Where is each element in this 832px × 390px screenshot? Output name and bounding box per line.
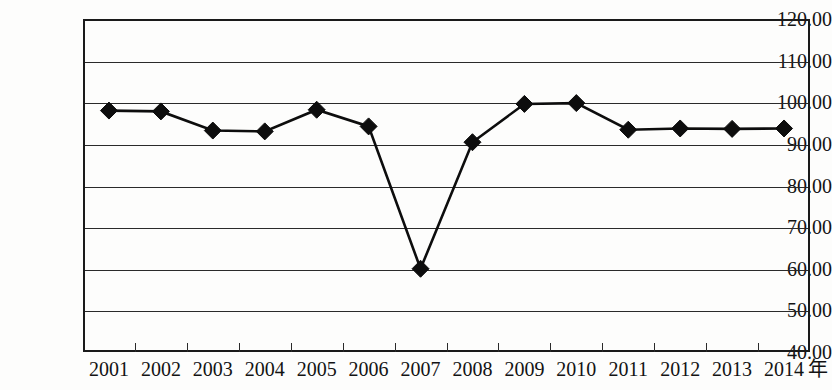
gridline-80 [85,187,808,188]
x-tick-mark [706,343,707,352]
gridline-110 [85,62,808,63]
plot-area [83,19,810,352]
x-tick-mark [550,343,551,352]
x-tick-mark [602,343,603,352]
x-tick-label-2009: 2009 [504,357,544,381]
x-axis-tick-marks [83,343,810,353]
x-tick-mark [447,343,448,352]
x-tick-mark [291,343,292,352]
x-tick-label-2005: 2005 [297,357,337,381]
x-tick-mark [343,343,344,352]
x-tick-label-2007: 2007 [401,357,441,381]
gridline-70 [85,228,808,229]
x-tick-label-2013: 2013 [712,357,752,381]
line-chart-figure: 120.00110.00100.0090.0080.0070.0060.0050… [0,0,832,390]
x-tick-label-2004: 2004 [245,357,285,381]
x-axis-unit-label: 年 [808,357,828,381]
x-tick-mark [135,343,136,352]
x-tick-label-2011: 2011 [609,357,648,381]
x-tick-label-2012: 2012 [660,357,700,381]
x-tick-label-2002: 2002 [141,357,181,381]
x-tick-mark [758,343,759,352]
x-tick-mark [498,343,499,352]
x-tick-label-2014: 2014 [764,357,804,381]
x-tick-label-2006: 2006 [349,357,389,381]
x-tick-label-2008: 2008 [452,357,492,381]
gridline-50 [85,311,808,312]
x-axis-labels: 年 20012002200320042005200620072008200920… [0,357,832,387]
x-tick-mark [654,343,655,352]
x-tick-label-2010: 2010 [556,357,596,381]
x-tick-label-2003: 2003 [193,357,233,381]
gridline-100 [85,103,808,104]
x-tick-label-2001: 2001 [89,357,129,381]
x-tick-mark [239,343,240,352]
gridline-90 [85,145,808,146]
x-tick-mark [395,343,396,352]
gridline-60 [85,270,808,271]
x-tick-mark [187,343,188,352]
